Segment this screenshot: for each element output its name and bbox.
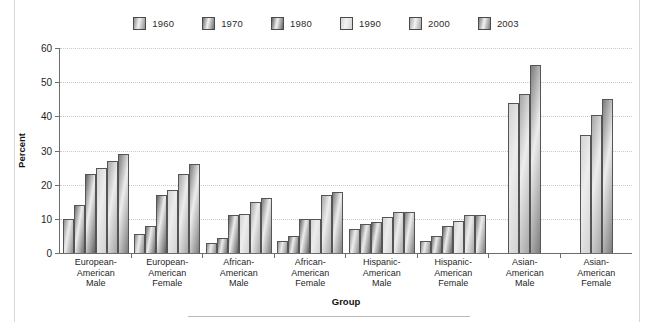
bar <box>371 222 382 253</box>
bar <box>404 212 415 253</box>
bar <box>167 190 178 253</box>
x-axis-labels: European-AmericanMaleEuropean-AmericanFe… <box>60 257 632 289</box>
x-axis-label: African-AmericanFemale <box>275 257 347 289</box>
bar-group <box>203 48 275 253</box>
bar <box>250 202 261 253</box>
bar <box>261 198 272 253</box>
legend-swatch <box>133 17 146 30</box>
bar <box>96 168 107 253</box>
bar <box>464 215 475 253</box>
chart-legend: 196019701980199020002003 <box>0 14 652 32</box>
y-axis-tick-label: 20 <box>6 179 52 190</box>
bar <box>134 234 145 253</box>
bar <box>475 215 486 253</box>
x-axis-label: African-AmericanMale <box>203 257 275 289</box>
bar-groups <box>60 48 632 253</box>
legend-label: 1990 <box>359 18 381 29</box>
bar <box>508 103 519 253</box>
legend-label: 1970 <box>221 18 243 29</box>
legend-swatch <box>478 17 491 30</box>
bar <box>74 205 85 253</box>
bar-group <box>489 48 561 253</box>
legend-item: 1980 <box>271 17 312 30</box>
bar <box>431 236 442 253</box>
bar <box>519 94 530 253</box>
x-axis-label: Hispanic-AmericanMale <box>346 257 418 289</box>
legend-item: 1970 <box>202 17 243 30</box>
bar <box>591 115 602 253</box>
bar <box>189 164 200 253</box>
y-axis-tick <box>55 253 60 254</box>
bar <box>107 161 118 253</box>
x-axis-label: European-AmericanFemale <box>132 257 204 289</box>
bar <box>299 219 310 253</box>
legend-item: 1960 <box>133 17 174 30</box>
bar-group <box>418 48 490 253</box>
bar <box>277 241 288 253</box>
plot-area: 0102030405060 <box>60 48 632 253</box>
x-axis-title: Group <box>60 296 632 307</box>
bar-group <box>275 48 347 253</box>
legend-label: 1980 <box>290 18 312 29</box>
x-axis-label: Asian-AmericanMale <box>489 257 561 289</box>
x-axis-label: Asian-AmericanFemale <box>561 257 633 289</box>
legend-swatch <box>340 17 353 30</box>
bar <box>530 65 541 253</box>
bar <box>145 226 156 253</box>
page-right-rule <box>639 0 640 322</box>
legend-label: 1960 <box>152 18 174 29</box>
bar <box>228 215 239 253</box>
legend-label: 2000 <box>428 18 450 29</box>
bar <box>580 135 591 253</box>
legend-label: 2003 <box>497 18 519 29</box>
bar <box>602 99 613 253</box>
x-axis-label: Hispanic-AmericanFemale <box>418 257 490 289</box>
chart-page: 196019701980199020002003 Percent 0102030… <box>0 0 652 322</box>
bar <box>393 212 404 253</box>
y-axis-tick-label: 0 <box>6 248 52 259</box>
x-axis-label: European-AmericanMale <box>60 257 132 289</box>
y-axis-tick-label: 50 <box>6 77 52 88</box>
bar <box>349 229 360 253</box>
legend-swatch <box>271 17 284 30</box>
legend-item: 2000 <box>409 17 450 30</box>
bar <box>288 236 299 253</box>
bar-group <box>132 48 204 253</box>
bar <box>63 219 74 253</box>
bar <box>239 214 250 253</box>
y-axis-tick-label: 10 <box>6 213 52 224</box>
bar-group <box>346 48 418 253</box>
bar <box>118 154 129 253</box>
bar <box>206 243 217 253</box>
legend-swatch <box>409 17 422 30</box>
bar <box>382 217 393 253</box>
bar <box>332 192 343 254</box>
bar <box>217 238 228 253</box>
y-axis-tick-label: 30 <box>6 145 52 156</box>
bar-group <box>561 48 633 253</box>
legend-swatch <box>202 17 215 30</box>
bar <box>310 219 321 253</box>
footer-rule <box>188 316 470 317</box>
bar <box>420 241 431 253</box>
bar <box>178 174 189 253</box>
bar <box>321 195 332 253</box>
y-axis-tick-label: 40 <box>6 111 52 122</box>
bar <box>85 174 96 253</box>
bar <box>453 221 464 253</box>
bar <box>442 226 453 253</box>
bar-group <box>60 48 132 253</box>
y-axis-tick-label: 60 <box>6 43 52 54</box>
legend-item: 1990 <box>340 17 381 30</box>
bar <box>156 195 167 253</box>
bar <box>360 224 371 253</box>
legend-item: 2003 <box>478 17 519 30</box>
